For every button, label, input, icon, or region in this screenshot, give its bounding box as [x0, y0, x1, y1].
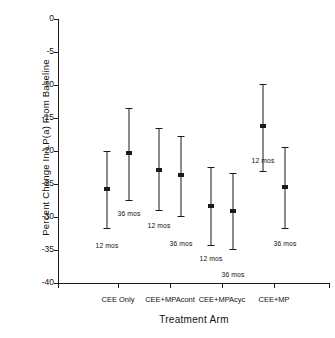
x-tick-label: CEE+MPAcyc — [199, 295, 246, 304]
error-bar-cap-lower — [178, 216, 185, 217]
error-bar-cap-upper — [208, 167, 215, 168]
data-point-marker — [126, 151, 132, 155]
point-annotation: 12 mos — [252, 157, 275, 164]
error-bar-cap-lower — [260, 171, 267, 172]
error-bar-cap-lower — [126, 200, 133, 201]
x-tick-mark — [118, 283, 119, 288]
error-bar-cap-upper — [260, 84, 267, 85]
error-bar-cap-lower — [282, 228, 289, 229]
data-point-marker — [156, 168, 162, 172]
y-tick-label: -10 — [42, 79, 54, 89]
x-axis-end-tick — [329, 283, 330, 288]
point-annotation: 12 mos — [96, 242, 119, 249]
y-tick-label: -40 — [42, 277, 54, 287]
x-axis-label: Treatment Arm — [58, 314, 330, 325]
data-point-marker — [178, 173, 184, 177]
y-tick-mark — [54, 151, 59, 152]
y-tick-label: -5 — [46, 46, 54, 56]
error-bar-cap-upper — [178, 136, 185, 137]
point-annotation: 36 mos — [118, 210, 141, 217]
point-annotation: 12 mos — [148, 222, 171, 229]
error-bar-cap-upper — [126, 108, 133, 109]
y-tick-mark — [54, 250, 59, 251]
chart-container: Percent Change In LP(a) From Baseline 0-… — [0, 0, 335, 338]
x-tick-label: CEE+MP — [258, 295, 289, 304]
y-tick-mark — [54, 19, 59, 20]
y-tick-label: -25 — [42, 178, 54, 188]
error-bar-cap-lower — [156, 210, 163, 211]
data-point-marker — [260, 124, 266, 128]
point-annotation: 36 mos — [222, 271, 245, 278]
error-bar-cap-lower — [104, 228, 111, 229]
plot-area: 0-5-10-15-20-25-30-35-40 CEE OnlyCEE+MPA… — [58, 19, 330, 283]
error-bar-cap-lower — [230, 249, 237, 250]
y-tick-label: 0 — [49, 13, 54, 23]
error-bar-cap-upper — [156, 128, 163, 129]
point-annotation: 12 mos — [200, 255, 223, 262]
x-tick-mark — [274, 283, 275, 288]
y-tick-label: -15 — [42, 112, 54, 122]
x-tick-mark — [170, 283, 171, 288]
data-point-marker — [104, 187, 110, 191]
y-tick-label: -35 — [42, 244, 54, 254]
error-bar-cap-lower — [208, 245, 215, 246]
y-tick-mark — [54, 85, 59, 86]
y-tick-label: -20 — [42, 145, 54, 155]
error-bar-cap-upper — [230, 173, 237, 174]
point-annotation: 36 mos — [274, 240, 297, 247]
error-bar-cap-upper — [104, 151, 111, 152]
error-bar-cap-upper — [282, 147, 289, 148]
y-tick-label: -30 — [42, 211, 54, 221]
data-point-marker — [230, 209, 236, 213]
y-tick-mark — [54, 217, 59, 218]
data-point-marker — [282, 185, 288, 189]
x-tick-label: CEE Only — [102, 295, 135, 304]
y-tick-mark — [54, 52, 59, 53]
point-annotation: 36 mos — [170, 240, 193, 247]
data-point-marker — [208, 204, 214, 208]
x-axis-line — [58, 283, 330, 284]
y-tick-mark — [54, 118, 59, 119]
x-tick-mark — [222, 283, 223, 288]
x-axis-end-tick — [58, 283, 59, 288]
x-tick-label: CEE+MPAcont — [145, 295, 195, 304]
y-tick-mark — [54, 184, 59, 185]
